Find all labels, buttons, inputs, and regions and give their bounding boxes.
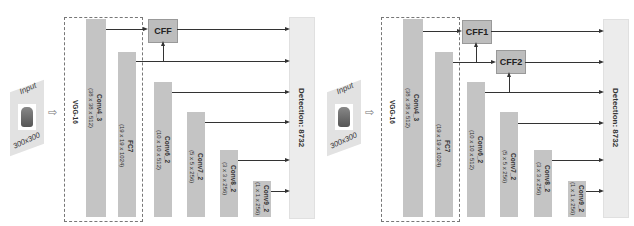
connector: [525, 62, 599, 63]
connector: [586, 191, 599, 192]
arrow-head-icon: [599, 121, 604, 125]
cff1-block: CFF1: [462, 20, 492, 44]
hand-image: [335, 104, 353, 130]
layer-dims: (5 x 5 x 256): [502, 150, 508, 183]
arrow-head-icon: [474, 42, 478, 47]
layer-name: Conv7_2: [197, 153, 204, 180]
arrow-head-icon: [285, 90, 290, 94]
connector: [136, 61, 285, 62]
arrow-head-icon: [285, 189, 290, 193]
hand-image: [18, 104, 36, 130]
layer-name: FC7: [444, 140, 451, 152]
connector: [177, 29, 285, 30]
arrow-head-icon: [285, 120, 290, 124]
layer-dims: (38 x 38 x 512): [88, 88, 94, 128]
arrow-head-icon: [457, 29, 462, 33]
layer-dims: (3 x 3 x 256): [536, 162, 542, 195]
detection-label: Detection: 8732: [297, 88, 306, 147]
arrow-head-icon: [599, 29, 604, 33]
arrow-head-icon: [161, 41, 165, 46]
layer-dims: (1 x 1 x 256): [255, 182, 261, 215]
layer-name: Conv8_2: [230, 165, 237, 192]
layer-dims: (19 x 19 x 1024): [119, 124, 125, 167]
layer-name: Conv9_2: [263, 185, 270, 212]
arrow-head-icon: [285, 59, 290, 63]
layer-dims: (5 x 5 x 256): [189, 150, 195, 183]
layer-name: Conv8_2: [544, 165, 551, 192]
connector: [485, 92, 599, 93]
layer-dims: (1 x 1 x 256): [570, 182, 576, 215]
connector: [509, 77, 510, 92]
layer-name: Conv7_2: [510, 153, 517, 180]
connector: [491, 31, 599, 32]
arrow-head-icon: [491, 60, 496, 64]
connector: [518, 123, 599, 124]
connector: [552, 160, 599, 161]
cff-block: CFF: [148, 19, 178, 43]
layer-name: Conv4_3: [413, 94, 420, 121]
arrow-head-icon: [507, 72, 511, 77]
layer-dims: (10 x 10 x 512): [469, 130, 475, 170]
connector: [423, 31, 458, 32]
connector: [476, 47, 477, 62]
layer-name: Conv6_2: [477, 136, 484, 163]
connector: [271, 191, 285, 192]
vgg16-label: VGG-16: [72, 100, 79, 124]
layer-dims: (3 x 3 x 256): [222, 162, 228, 195]
connector: [205, 122, 285, 123]
layer-name: Conv9_2: [578, 185, 585, 212]
layer-dims: (19 x 19 x 1024): [436, 124, 442, 167]
connector: [106, 29, 144, 30]
arrow-right-icon: ⇨: [365, 106, 374, 119]
layer-name: Conv4_3: [96, 94, 103, 121]
diagram-ssd-cff: Input 300x300 ⇨ VGG-16 Conv4_3(38 x 38 x…: [0, 0, 317, 226]
cff2-block: CFF2: [496, 50, 526, 74]
arrow-head-icon: [599, 158, 604, 162]
diagram-ssd-cff2: Input 300x300 ⇨ VGG-16 Conv4_3(38 x 38 x…: [317, 0, 634, 226]
layer-dims: (38 x 38 x 512): [405, 88, 411, 128]
layer-name: FC7: [127, 140, 134, 152]
arrow-head-icon: [285, 27, 290, 31]
arrow-head-icon: [143, 27, 148, 31]
layer-name: Conv6_2: [164, 136, 171, 163]
arrow-right-icon: ⇨: [48, 106, 57, 119]
vgg16-label: VGG-16: [389, 100, 396, 124]
detection-label: Detection: 8732: [611, 88, 620, 147]
arrow-head-icon: [285, 158, 290, 162]
arrow-head-icon: [599, 60, 604, 64]
connector: [163, 46, 164, 61]
connector: [453, 62, 492, 63]
arrow-head-icon: [599, 189, 604, 193]
arrow-head-icon: [599, 90, 604, 94]
connector: [172, 92, 285, 93]
layer-dims: (10 x 10 x 512): [156, 130, 162, 170]
connector: [238, 160, 285, 161]
